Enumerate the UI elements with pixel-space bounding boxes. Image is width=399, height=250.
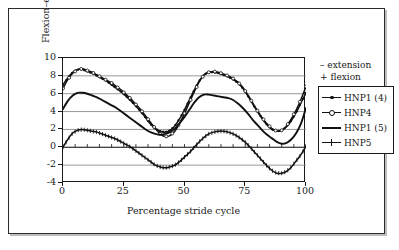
x-tick-label: 100	[292, 186, 318, 196]
y-tick-mark	[58, 111, 62, 112]
legend-item-hnp4[interactable]: HNP4	[321, 105, 390, 120]
y-tick-label: -2	[32, 159, 56, 169]
y-tick-mark	[58, 146, 62, 147]
x-tick-label: 75	[231, 186, 257, 196]
y-tick-mark	[58, 57, 62, 58]
x-tick-label: 0	[49, 186, 75, 196]
legend-label: HNP1 (4)	[342, 93, 387, 103]
y-tick-mark	[58, 164, 62, 165]
legend-item-hnp5[interactable]: HNP5	[321, 135, 390, 150]
y-tick-label: 6	[32, 88, 56, 98]
y-tick-label: 4	[32, 106, 56, 116]
flexion-note: + flexion	[320, 72, 371, 84]
legend-label: HNP1 (5)	[342, 123, 387, 133]
legend-item-hnp1-4[interactable]: HNP1 (4)	[321, 90, 390, 105]
plus-marker-icon	[321, 137, 342, 149]
legend-label: HNP4	[342, 108, 372, 118]
extension-note: – extension	[320, 60, 371, 72]
x-axis-title: Percentage stride cycle	[62, 205, 305, 216]
legend-item-hnp1-5[interactable]: HNP1 (5)	[321, 120, 390, 135]
plot-area	[62, 57, 305, 182]
y-tick-label: 10	[32, 52, 56, 62]
legend-label: HNP5	[342, 138, 372, 148]
y-tick-mark	[58, 128, 62, 129]
y-tick-label: 2	[32, 123, 56, 133]
y-tick-mark	[58, 93, 62, 94]
y-tick-label: 8	[32, 70, 56, 80]
open-circle-marker-icon	[321, 107, 342, 119]
plot-wrapper: Flexion–extension (°)	[62, 57, 305, 182]
chart-canvas	[63, 58, 306, 183]
x-tick-label: 25	[110, 186, 136, 196]
plain-line-marker-icon	[321, 122, 342, 134]
y-tick-mark	[58, 75, 62, 76]
figure-container: Percentage stride cycle Flexion–extensio…	[0, 0, 399, 250]
sign-convention-note: – extension + flexion	[320, 60, 371, 83]
y-tick-label: 0	[32, 141, 56, 151]
y-axis-title: Flexion–extension (°)	[40, 0, 51, 43]
x-tick-label: 50	[171, 186, 197, 196]
legend: HNP1 (4) HNP4 HNP1 (5) HNP5	[318, 86, 394, 154]
dot-marker-icon	[321, 92, 342, 104]
